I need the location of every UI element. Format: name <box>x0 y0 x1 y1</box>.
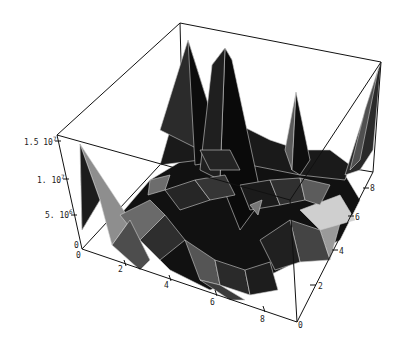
z-axis: 1.5 107 1. 107 5. 106 0 <box>24 135 79 250</box>
surface-mesh <box>80 40 381 300</box>
z-tick-label: 0 <box>74 241 79 250</box>
y-tick-label: 2 <box>318 282 323 291</box>
y-tick-label: 4 <box>339 247 344 256</box>
x-tick-label: 2 <box>118 265 123 274</box>
z-tick-label: 1.5 107 <box>24 135 57 147</box>
x-tick-label: 8 <box>260 315 265 324</box>
y-tick-label: 0 <box>298 321 303 330</box>
y-tick-label: 8 <box>370 184 375 193</box>
y-tick-label: 6 <box>355 213 360 222</box>
surface-plot: 1.5 107 1. 107 5. 106 0 0 2 4 6 8 0 2 4 … <box>0 0 402 343</box>
x-tick-label: 0 <box>76 251 81 260</box>
z-tick-label: 5. 106 <box>45 208 73 220</box>
z-tick-label: 1. 107 <box>37 173 65 185</box>
x-tick-label: 4 <box>164 281 169 290</box>
x-tick-label: 6 <box>210 298 215 307</box>
